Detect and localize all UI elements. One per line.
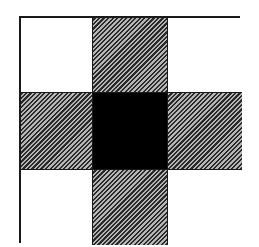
cross-grid-diagram [19, 16, 240, 243]
cell-middle-right [168, 93, 242, 170]
cell-top-right [168, 18, 242, 93]
cell-top-left [21, 18, 93, 93]
cell-center [93, 93, 168, 170]
cell-bottom-right [168, 170, 242, 245]
cell-bottom-left [21, 170, 93, 245]
cell-bottom-center [93, 170, 168, 245]
cell-top-center [93, 18, 168, 93]
cell-middle-left [21, 93, 93, 170]
